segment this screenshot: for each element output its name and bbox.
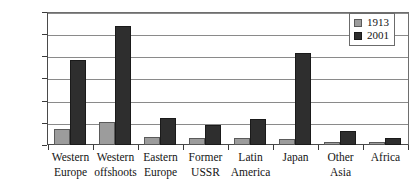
x-axis-label-africa: Africa xyxy=(363,150,408,165)
bar-group-former-ussr xyxy=(183,12,228,145)
y-axis-tick xyxy=(42,78,47,79)
bar-chart: 30,000 25,000 20,000 15,000 10,000 5,000… xyxy=(0,0,416,192)
bar-2001-other-asia xyxy=(340,131,356,145)
x-axis-label-line2: Asia xyxy=(318,165,363,180)
bar-1913-latin-america xyxy=(234,138,250,145)
legend-label-1913: 1913 xyxy=(367,17,389,28)
legend-swatch-1913-icon xyxy=(354,19,362,27)
bar-1913-japan xyxy=(279,139,295,145)
x-axis-label-japan: Japan xyxy=(273,150,318,165)
y-axis-tick xyxy=(42,34,47,35)
legend-swatch-2001-icon xyxy=(354,32,362,40)
bar-1913-other-asia xyxy=(324,142,340,145)
bar-2001-japan xyxy=(295,53,311,145)
x-axis-label-line1: Africa xyxy=(371,151,400,163)
y-axis-tick xyxy=(42,123,47,124)
x-axis-label-line1: Western xyxy=(97,151,134,163)
x-axis-label-line1: Other xyxy=(327,151,353,163)
bar-2001-western-europe xyxy=(70,60,86,145)
x-axis-label-line2: America xyxy=(228,165,273,180)
y-axis-tick xyxy=(42,101,47,102)
bar-2001-eastern-europe xyxy=(160,118,176,145)
x-axis-label-line2: USSR xyxy=(183,165,228,180)
bar-2001-western-offshoots xyxy=(115,26,131,145)
x-axis-tick xyxy=(408,145,409,150)
bar-group-western-europe xyxy=(48,12,93,145)
bar-group-japan xyxy=(273,12,318,145)
bar-2001-latin-america xyxy=(250,119,266,145)
x-axis-label-line1: Former xyxy=(189,151,223,163)
legend-entry-1913: 1913 xyxy=(354,16,389,29)
x-axis-label-line2: Europe xyxy=(138,165,183,180)
chart-legend: 1913 2001 xyxy=(349,13,395,46)
x-axis-label-line1: Latin xyxy=(238,151,262,163)
x-axis-label-line1: Eastern xyxy=(143,151,177,163)
x-axis-label-latin-america: Latin America xyxy=(228,150,273,179)
legend-entry-2001: 2001 xyxy=(354,29,389,42)
legend-label-2001: 2001 xyxy=(367,30,389,41)
bar-2001-africa xyxy=(385,138,401,145)
bar-group-eastern-europe xyxy=(138,12,183,145)
bar-1913-western-offshoots xyxy=(99,122,115,145)
x-axis-label-line1: Japan xyxy=(282,151,308,163)
bar-1913-africa xyxy=(369,142,385,145)
x-axis-label-other-asia: Other Asia xyxy=(318,150,363,179)
bar-1913-former-ussr xyxy=(189,138,205,145)
x-axis-label-line2: Europe xyxy=(48,165,93,180)
bar-group-western-offshoots xyxy=(93,12,138,145)
bar-group-latin-america xyxy=(228,12,273,145)
x-axis-label-former-ussr: Former USSR xyxy=(183,150,228,179)
bar-2001-former-ussr xyxy=(205,125,221,145)
bar-1913-eastern-europe xyxy=(144,137,160,145)
x-axis-label-western-europe: Western Europe xyxy=(48,150,93,179)
y-axis-tick xyxy=(42,56,47,57)
x-axis-label-line2: offshoots xyxy=(93,165,138,180)
bar-1913-western-europe xyxy=(54,129,70,145)
x-axis-label-eastern-europe: Eastern Europe xyxy=(138,150,183,179)
x-axis-label-western-offshoots: Western offshoots xyxy=(93,150,138,179)
x-axis-label-line1: Western xyxy=(52,151,89,163)
y-axis-tick xyxy=(42,12,47,13)
y-axis-tick xyxy=(42,145,47,146)
